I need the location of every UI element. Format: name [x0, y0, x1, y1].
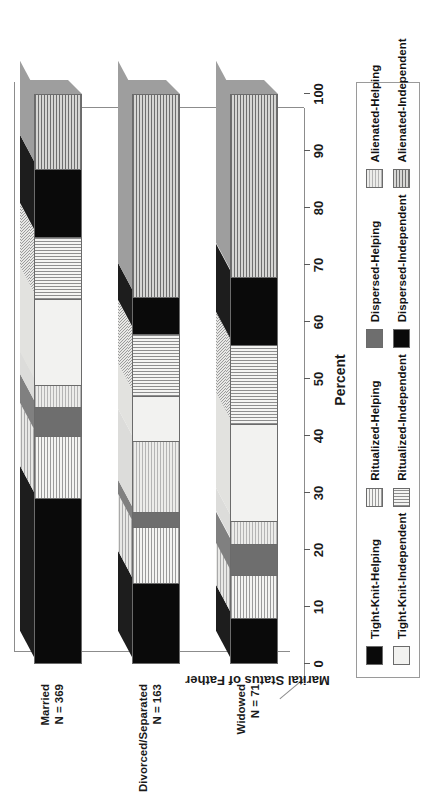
bar-segment — [133, 441, 179, 512]
axis-tick-label: 60 — [311, 315, 326, 329]
bar-segment — [133, 334, 179, 396]
category-label-name: Married — [38, 684, 52, 726]
stacked-bar — [20, 94, 82, 664]
legend-label: Alienated-Helping — [369, 65, 381, 163]
legend-item: Ritualized-Helping — [366, 354, 383, 513]
bar-front-face — [230, 94, 278, 664]
axis-tick-label: 40 — [311, 429, 326, 443]
axis-tick — [304, 321, 310, 322]
bar-segment — [35, 436, 81, 498]
bar-top-face — [216, 94, 230, 664]
bar-front-face — [34, 94, 82, 664]
stacked-bar — [118, 94, 180, 664]
legend-swatch — [393, 329, 410, 348]
bar-segment-top — [20, 465, 34, 657]
axis-tick — [304, 435, 310, 436]
legend-swatch — [366, 169, 383, 188]
category-label-count: N = 369 — [52, 684, 66, 726]
bar-segment — [35, 95, 81, 169]
legend-swatch — [393, 169, 410, 188]
axis-tick-label: 50 — [311, 372, 326, 386]
category-label-count: N = 163 — [150, 684, 164, 792]
bar-segment — [231, 277, 277, 345]
legend-label: Alienated-Independent — [396, 38, 408, 162]
bar-segment — [231, 575, 277, 618]
bar-segment — [231, 424, 277, 521]
bar-segment — [35, 237, 81, 299]
category-label: WidowedN = 71 — [234, 684, 262, 734]
axis-tick — [304, 150, 310, 151]
legend-item: Tight-Knit-Helping — [366, 513, 383, 671]
bar-segment — [231, 345, 277, 425]
legend-label: Tight-Knit-Independent — [396, 513, 408, 639]
legend-swatch — [393, 488, 410, 507]
axis-tick — [304, 207, 310, 208]
bar-segment — [133, 527, 179, 584]
legend-swatch — [366, 488, 383, 507]
bar-segment — [231, 95, 277, 277]
axis-tick — [304, 606, 310, 607]
legend-label: Dispersed-Helping — [369, 221, 381, 323]
axis-tick-label: 90 — [311, 144, 326, 158]
axis-tick — [304, 549, 310, 550]
bar-segment — [35, 169, 81, 237]
category-label: MarriedN = 369 — [38, 684, 66, 726]
stacked-bar — [216, 94, 278, 664]
bar-segment — [133, 297, 179, 334]
axis-tick-label: 20 — [311, 543, 326, 557]
bar-segment — [35, 498, 81, 663]
bar-segment — [133, 396, 179, 441]
legend-item: Dispersed-Helping — [366, 194, 383, 354]
legend-label: Tight-Knit-Helping — [369, 539, 381, 639]
bar-segment — [231, 521, 277, 544]
bar-segment — [35, 385, 81, 408]
bar-top-face — [20, 94, 34, 664]
bar-segment — [133, 512, 179, 526]
category-label-count: N = 71 — [248, 684, 262, 734]
category-label-name: Divorced/Separated — [136, 684, 150, 792]
axis-tick — [304, 378, 310, 379]
bar-segment — [35, 407, 81, 435]
axis-tick-label: 70 — [311, 258, 326, 272]
axis-tick-label: 30 — [311, 486, 326, 500]
bar-segment — [231, 544, 277, 575]
legend-label: Dispersed-Independent — [396, 194, 408, 322]
bar-segment — [133, 583, 179, 663]
bar-segment — [35, 299, 81, 384]
legend-swatch — [366, 329, 383, 348]
legend-item: Alienated-Helping — [366, 38, 383, 194]
axis-tick-label: 100 — [311, 83, 326, 105]
axis-tick — [304, 264, 310, 265]
axis-tick-label: 0 — [311, 660, 326, 667]
legend-label: Ritualized-Helping — [369, 380, 381, 480]
chart-legend: Tight-Knit-HelpingRitualized-HelpingDisp… — [356, 82, 420, 678]
category-label-name: Widowed — [234, 684, 248, 734]
bar-segment — [133, 95, 179, 297]
category-label: Divorced/SeparatedN = 163 — [136, 684, 164, 792]
axis-tick-label: 80 — [311, 201, 326, 215]
legend-swatch — [366, 646, 383, 665]
bar-segment — [231, 618, 277, 663]
axis-tick — [304, 93, 310, 94]
value-axis: Percent 0102030405060708090100 — [304, 82, 344, 678]
legend-swatch — [393, 646, 410, 665]
bar-front-face — [132, 94, 180, 664]
axis-tick — [304, 663, 310, 664]
axis-tick-label: 10 — [311, 600, 326, 614]
axis-tick — [304, 492, 310, 493]
bar-top-face — [118, 94, 132, 664]
legend-item: Ritualized-Independent — [393, 354, 410, 513]
x-axis-title: Percent — [332, 82, 348, 678]
legend-item: Alienated-Independent — [393, 38, 410, 194]
legend-label: Ritualized-Independent — [396, 354, 408, 481]
bar-series-container — [14, 82, 314, 678]
legend-item: Tight-Knit-Independent — [393, 513, 410, 671]
bar-segment-top — [118, 61, 132, 290]
legend-item: Dispersed-Independent — [393, 194, 410, 354]
